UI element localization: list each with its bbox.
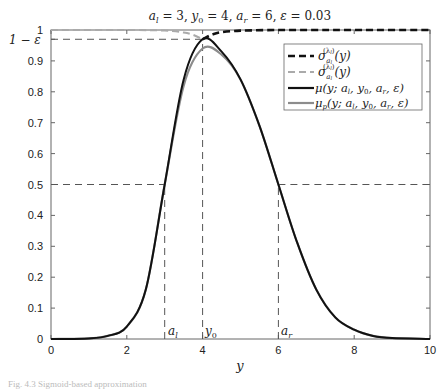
y0-label: y0	[204, 324, 217, 340]
y-tick-label: 0.4	[28, 209, 43, 221]
y-tick-label: 0.8	[28, 86, 43, 98]
x-tick-label: 2	[124, 344, 130, 356]
al-label: al	[168, 324, 178, 340]
y-tick-label: 0.3	[28, 240, 43, 252]
chart-title: al = 3, y0 = 4, ar = 6, ε = 0.03	[149, 9, 331, 25]
y-tick-label: 0.2	[28, 271, 43, 283]
x-tick-label: 0	[48, 344, 54, 356]
x-tick-label: 6	[275, 344, 281, 356]
legend-label: σal(λl)(y)	[318, 63, 351, 81]
x-tick-label: 4	[200, 344, 206, 356]
ar-label: ar	[281, 324, 293, 340]
one-minus-epsilon-label: 1 − ε	[9, 33, 41, 47]
y-tick-label: 0.9	[28, 55, 43, 67]
figure-caption: Fig. 4.3 Sigmoid-based approximation	[8, 379, 147, 389]
y-tick-label: 0.7	[28, 117, 43, 129]
y-tick-label: 0.5	[28, 179, 43, 191]
legend-label: μ(y; al, y0, ar, ε)	[315, 81, 404, 96]
x-tick-label: 10	[424, 344, 436, 356]
series-line	[203, 30, 430, 39]
legend-label: μp(y; al, y0, ar, ε)	[315, 96, 408, 111]
x-tick-label: 8	[351, 344, 357, 356]
y-tick-label: 0.1	[28, 302, 43, 314]
y-tick-label: 0.6	[28, 148, 43, 160]
legend: σal(λl)(y) σal(λl)(y) μ(y; al, y0, ar, ε…	[284, 44, 422, 111]
chart: al = 3, y0 = 4, ar = 6, ε = 0.03 0246810…	[0, 0, 448, 392]
x-axis-label: y	[235, 358, 244, 373]
y-tick-label: 0	[37, 333, 43, 345]
